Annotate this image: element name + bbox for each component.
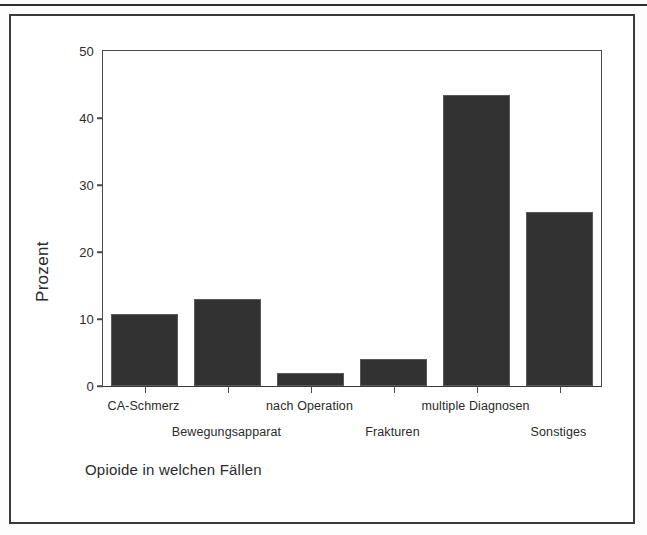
x-axis-tick-mark bbox=[477, 386, 479, 393]
bar bbox=[194, 299, 260, 386]
bar bbox=[360, 359, 426, 386]
y-axis-title: Prozent bbox=[33, 241, 53, 302]
y-axis-tick-mark bbox=[97, 318, 103, 320]
x-axis-tick-mark bbox=[394, 386, 396, 393]
bar bbox=[443, 95, 509, 386]
x-axis-category-label: Bewegungsapparat bbox=[172, 425, 281, 439]
x-axis-category-label: multiple Diagnosen bbox=[421, 399, 529, 413]
plot-area: 01020304050 bbox=[102, 50, 602, 387]
bar bbox=[277, 373, 343, 386]
x-axis-category-label: Frakturen bbox=[365, 425, 419, 439]
bar bbox=[111, 314, 177, 386]
x-axis-tick-mark bbox=[228, 386, 230, 393]
page-top-rule bbox=[0, 4, 647, 6]
x-axis-category-label: nach Operation bbox=[266, 399, 353, 413]
y-axis-tick-mark bbox=[97, 184, 103, 186]
x-axis-tick-mark bbox=[560, 386, 562, 393]
x-axis-category-label: Sonstiges bbox=[531, 425, 587, 439]
figure-frame: Prozent 01020304050 CA-SchmerzBewegungsa… bbox=[9, 14, 635, 524]
bar-chart: Prozent 01020304050 CA-SchmerzBewegungsa… bbox=[11, 16, 637, 526]
bar bbox=[526, 212, 592, 386]
y-axis-tick-mark bbox=[97, 117, 103, 119]
scanned-page: Prozent 01020304050 CA-SchmerzBewegungsa… bbox=[0, 0, 647, 535]
figure-caption: Opioide in welchen Fällen bbox=[85, 461, 262, 478]
x-axis-category-label: CA-Schmerz bbox=[108, 399, 180, 413]
y-axis-tick-mark bbox=[97, 251, 103, 253]
x-axis-tick-mark bbox=[145, 386, 147, 393]
y-axis-tick-mark bbox=[97, 385, 103, 387]
x-axis-tick-mark bbox=[311, 386, 313, 393]
y-axis-tick-label: 50 bbox=[79, 44, 103, 59]
